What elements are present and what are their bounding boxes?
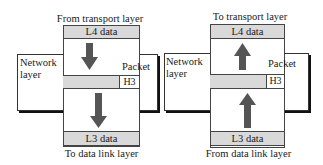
right-arrow-up-icon <box>0 0 323 165</box>
